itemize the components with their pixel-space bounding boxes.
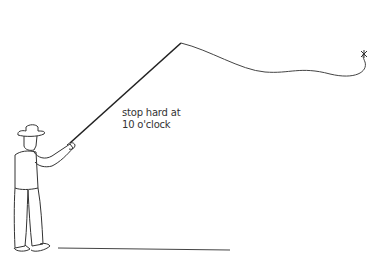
fly-line [181, 43, 365, 76]
fly-icon [361, 50, 367, 58]
annotation-line-1: stop hard at [122, 107, 180, 119]
casting-illustration: stop hard at 10 o'clock [0, 0, 387, 267]
illustration-drawing [0, 0, 387, 267]
fisherman-figure [14, 125, 75, 251]
ground-line [58, 248, 230, 250]
annotation-line-2: 10 o'clock [122, 119, 170, 131]
